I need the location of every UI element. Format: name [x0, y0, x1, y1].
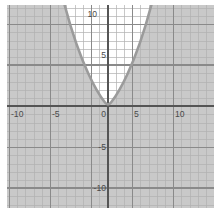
y-tick-label-5: 5 [101, 50, 106, 60]
y-tick-label--5: -5 [98, 142, 106, 152]
origin-label: 0 [101, 109, 106, 119]
y-tick-label--10: -10 [94, 183, 107, 193]
x-tick-label--5: -5 [52, 109, 60, 119]
x-tick-label-10: 10 [175, 109, 185, 119]
x-tick-label--10: -10 [11, 109, 24, 119]
y-tick-label-10: 10 [87, 9, 97, 19]
graph-figure: -10 -5 5 10 10 5 -5 -10 0 [0, 0, 221, 215]
x-tick-label-5: 5 [134, 109, 139, 119]
coordinate-plane: -10 -5 5 10 10 5 -5 -10 0 [0, 0, 221, 215]
